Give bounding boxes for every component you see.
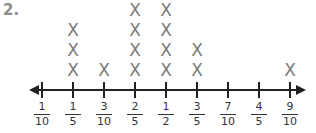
x-mark: X	[125, 62, 145, 79]
tick-label-numerator: 1	[70, 100, 77, 113]
tick-label: 310	[92, 101, 116, 128]
axis-tick	[227, 82, 229, 98]
tick-label-numerator: 9	[287, 100, 294, 113]
tick-label-numerator: 4	[256, 100, 263, 113]
tick-label-denominator: 5	[256, 115, 263, 128]
tick-label-numerator: 1	[163, 100, 170, 113]
x-mark: X	[187, 62, 207, 79]
tick-label-denominator: 5	[70, 115, 77, 128]
tick-label: 25	[123, 101, 147, 128]
axis-tick	[289, 82, 291, 98]
x-mark: X	[63, 62, 83, 79]
tick-label: 710	[216, 101, 240, 128]
tick-label-denominator: 2	[163, 115, 170, 128]
tick-label-numerator: 7	[225, 100, 232, 113]
axis-tick	[196, 82, 198, 98]
tick-label-denominator: 5	[132, 115, 139, 128]
tick-label-denominator: 10	[221, 115, 235, 128]
tick-label-numerator: 3	[194, 100, 201, 113]
axis-tick	[258, 82, 260, 98]
tick-label: 110	[30, 101, 54, 128]
x-mark: X	[125, 2, 145, 19]
tick-label: 45	[247, 101, 271, 128]
axis-tick	[41, 82, 43, 98]
x-mark: X	[156, 62, 176, 79]
tick-label-numerator: 2	[132, 100, 139, 113]
axis-tick	[72, 82, 74, 98]
axis-tick	[165, 82, 167, 98]
tick-label-numerator: 3	[101, 100, 108, 113]
x-mark: X	[63, 42, 83, 59]
tick-label-denominator: 10	[97, 115, 111, 128]
x-mark: X	[94, 62, 114, 79]
tick-label: 15	[61, 101, 85, 128]
tick-label: 910	[278, 101, 302, 128]
line-plot: 11015XXX310X25XXXX12XXXX35XX71045910X	[0, 0, 316, 133]
x-mark: X	[280, 62, 300, 79]
axis-tick	[134, 82, 136, 98]
axis-right-arrow-icon	[296, 85, 306, 95]
tick-label: 35	[185, 101, 209, 128]
tick-label-denominator: 10	[35, 115, 49, 128]
x-mark: X	[187, 42, 207, 59]
tick-label-denominator: 5	[194, 115, 201, 128]
x-mark: X	[125, 22, 145, 39]
x-mark: X	[156, 2, 176, 19]
x-mark: X	[156, 22, 176, 39]
tick-label-numerator: 1	[39, 100, 46, 113]
tick-label: 12	[154, 101, 178, 128]
x-mark: X	[63, 22, 83, 39]
tick-label-denominator: 10	[283, 115, 297, 128]
axis-tick	[103, 82, 105, 98]
number-line-axis	[36, 89, 300, 91]
x-mark: X	[125, 42, 145, 59]
x-mark: X	[156, 42, 176, 59]
